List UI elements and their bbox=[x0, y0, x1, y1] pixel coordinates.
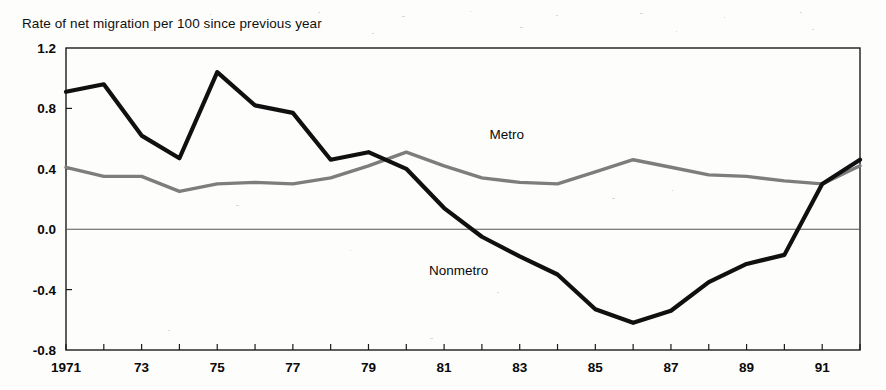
y-axis-tick-label: 0.0 bbox=[37, 222, 56, 237]
x-axis-tick-label: 73 bbox=[134, 360, 150, 375]
scan-speck bbox=[210, 14, 211, 15]
x-axis-tick-label: 75 bbox=[210, 360, 226, 375]
series-label-metro: Metro bbox=[489, 127, 524, 142]
scan-speck bbox=[470, 11, 471, 12]
series-label-nonmetro: Nonmetro bbox=[429, 263, 488, 278]
x-axis-tick-label: 1971 bbox=[51, 360, 82, 375]
scan-speck bbox=[676, 31, 677, 32]
x-axis-tick-label: 77 bbox=[285, 360, 300, 375]
scan-speck bbox=[430, 338, 433, 339]
scan-speck bbox=[350, 250, 351, 251]
scan-speck bbox=[497, 292, 499, 293]
x-axis-tick-label: 83 bbox=[512, 360, 528, 375]
scan-speck bbox=[800, 12, 802, 13]
scan-speck bbox=[612, 198, 615, 199]
x-axis-tick-label: 91 bbox=[815, 360, 831, 375]
scan-speck bbox=[150, 30, 153, 31]
scan-speck bbox=[236, 205, 239, 206]
y-axis-tick-label: 0.8 bbox=[37, 101, 56, 116]
scan-speck bbox=[812, 29, 814, 30]
scan-speck bbox=[640, 13, 643, 14]
x-axis-tick-label: 81 bbox=[437, 360, 453, 375]
y-axis-tick-label: -0.4 bbox=[33, 283, 57, 298]
scan-speck bbox=[372, 33, 374, 34]
scan-speck bbox=[318, 12, 320, 13]
y-axis-tick-label: 1.2 bbox=[37, 41, 56, 56]
x-axis-tick-label: 79 bbox=[361, 360, 376, 375]
scan-speck bbox=[672, 190, 673, 191]
series-line-nonmetro bbox=[66, 72, 860, 323]
y-axis-tick-label: -0.8 bbox=[33, 343, 57, 358]
scan-speck bbox=[402, 16, 405, 17]
chart-plot-area: 1.20.80.40.0-0.4-0.819717375777981838587… bbox=[0, 0, 886, 390]
plot-frame bbox=[66, 48, 860, 350]
scan-speck bbox=[556, 15, 558, 16]
x-axis-tick-label: 89 bbox=[739, 360, 754, 375]
migration-rate-chart-figure: Rate of net migration per 100 since prev… bbox=[0, 0, 886, 390]
scan-speck bbox=[724, 17, 725, 18]
y-axis-tick-label: 0.4 bbox=[37, 162, 56, 177]
scan-speck bbox=[520, 27, 523, 28]
scan-speck bbox=[288, 28, 289, 29]
x-axis-tick-label: 85 bbox=[588, 360, 604, 375]
x-axis-tick-label: 87 bbox=[663, 360, 678, 375]
scan-speck bbox=[168, 330, 170, 331]
series-line-metro bbox=[66, 152, 860, 191]
